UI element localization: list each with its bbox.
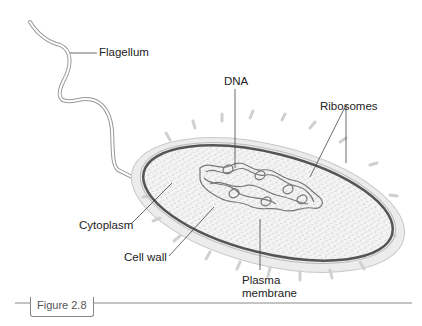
figure-caption-tab: Figure 2.8	[30, 297, 94, 317]
label-flagellum: Flagellum	[99, 46, 149, 59]
bacterium-diagram: Flagellum DNA Ribosomes Cytoplasm Cell w…	[0, 0, 422, 326]
label-plasma-membrane-line2: membrane	[242, 287, 297, 300]
label-cytoplasm: Cytoplasm	[79, 219, 133, 232]
label-dna: DNA	[224, 75, 248, 88]
label-ribosomes: Ribosomes	[320, 100, 378, 113]
label-plasma-membrane: Plasma membrane	[242, 274, 297, 300]
label-cell-wall: Cell wall	[124, 251, 167, 264]
label-plasma-membrane-line1: Plasma	[242, 274, 297, 287]
bacterium-illustration	[0, 0, 422, 326]
